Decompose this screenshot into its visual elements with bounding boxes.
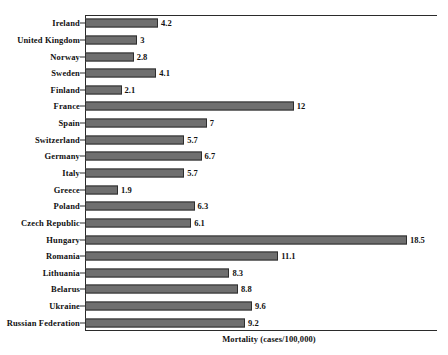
category-label: Lithuania [43,268,80,278]
bar-value-label: 6.7 [205,151,216,161]
bar[interactable] [85,119,207,128]
bar-value-label: 1.9 [121,185,132,195]
bar-value-label: 4.1 [159,68,170,78]
bar-row: Italy5.7 [0,165,448,181]
bar[interactable] [85,235,407,244]
category-label: Russian Federation [7,318,80,328]
bar[interactable] [85,168,184,177]
category-label: Italy [62,168,80,178]
category-label: United Kingdom [17,35,80,45]
bar[interactable] [85,302,252,311]
bar-row: Romania11.1 [0,248,448,264]
category-label: Romania [46,251,80,261]
bar[interactable] [85,268,229,277]
bar-value-label: 6.1 [194,218,205,228]
bar-value-label: 8.3 [232,268,243,278]
category-label: Belarus [51,284,80,294]
category-label: Finland [51,85,80,95]
bar-value-label: 9.2 [248,318,259,328]
bar-row: Switzerland5.7 [0,132,448,148]
bar[interactable] [85,202,195,211]
bar-value-label: 5.7 [187,168,198,178]
bar-row: Germany6.7 [0,148,448,164]
bar[interactable] [85,52,134,61]
bar-row: Poland6.3 [0,198,448,214]
category-label: Sweden [51,68,80,78]
bar[interactable] [85,69,156,78]
bar-row: Norway2.8 [0,49,448,65]
bar-row: United Kingdom3 [0,32,448,48]
bar-value-label: 2.1 [125,85,136,95]
bar[interactable] [85,252,278,261]
bar-row: Lithuania8.3 [0,265,448,281]
bar-row: Russian Federation9.2 [0,315,448,331]
category-label: Poland [54,201,80,211]
bar-row: Ireland4.2 [0,15,448,31]
bar-row: Sweden4.1 [0,65,448,81]
category-label: Norway [50,52,80,62]
bar-row: Ukraine9.6 [0,298,448,314]
bar[interactable] [85,318,245,327]
bar-value-label: 2.8 [137,52,148,62]
bar-row: Belarus8.8 [0,282,448,298]
bar[interactable] [85,85,122,94]
category-label: France [54,101,80,111]
bar-value-label: 12 [297,101,306,111]
bar-row: Czech Republic6.1 [0,215,448,231]
bar-value-label: 18.5 [410,235,425,245]
category-label: Hungary [46,235,80,245]
x-axis-title-label: Mortality (cases/100,000) [222,334,316,344]
bar-value-label: 5.7 [187,135,198,145]
bar-value-label: 3 [140,35,144,45]
bar-rows: Ireland4.2United Kingdom3Norway2.8Sweden… [0,15,448,331]
bar-value-label: 7 [210,118,214,128]
category-label: Ukraine [49,301,80,311]
bar-row: Hungary18.5 [0,232,448,248]
category-label: Czech Republic [21,218,80,228]
bar[interactable] [85,19,158,28]
category-label: Spain [58,118,80,128]
bar[interactable] [85,185,118,194]
bar-row: Greece1.9 [0,182,448,198]
bar[interactable] [85,102,294,111]
bar-value-label: 9.6 [255,301,266,311]
category-label: Germany [44,151,80,161]
bar-value-label: 6.3 [198,201,209,211]
bar[interactable] [85,152,202,161]
bar-row: Spain7 [0,115,448,131]
bar[interactable] [85,35,137,44]
category-label: Switzerland [35,135,80,145]
category-label: Ireland [52,18,80,28]
bar[interactable] [85,218,191,227]
bar-row: France12 [0,99,448,115]
bar-value-label: 8.8 [241,284,252,294]
bar[interactable] [85,285,238,294]
bar[interactable] [85,135,184,144]
category-label: Greece [54,185,80,195]
bar-value-label: 4.2 [161,18,172,28]
bar-value-label: 11.1 [281,251,295,261]
x-axis-title: Mortality (cases/100,000) [0,334,448,344]
chart-page: Ireland4.2United Kingdom3Norway2.8Sweden… [0,0,448,355]
bar-row: Finland2.1 [0,82,448,98]
